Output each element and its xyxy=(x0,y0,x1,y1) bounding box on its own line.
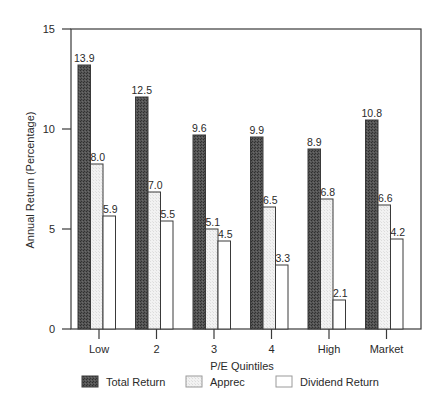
bar-value-label: 5.1 xyxy=(205,216,220,228)
bar-value-label: 13.9 xyxy=(74,52,95,64)
bar-group-2: 12.57.05.5 xyxy=(132,84,176,329)
bar-group-4: 9.96.53.3 xyxy=(249,124,290,329)
bar-dividend-return xyxy=(161,221,174,329)
x-tick-label: Market xyxy=(370,343,404,355)
legend-swatch xyxy=(276,376,292,387)
y-axis-label: Annual Return (Percentage) xyxy=(24,112,36,249)
bar-value-label: 10.8 xyxy=(362,107,383,119)
x-tick-label: 3 xyxy=(211,343,217,355)
bar-group-high: 8.96.82.1 xyxy=(307,136,348,329)
legend-label: Dividend Return xyxy=(300,376,379,388)
bar-value-label: 8.9 xyxy=(307,136,322,148)
bar-dividend-return xyxy=(218,241,231,329)
bar-dividend-return xyxy=(276,265,289,329)
bar-apprec xyxy=(91,164,104,329)
bar-value-label: 9.9 xyxy=(249,124,264,136)
legend-label: Total Return xyxy=(106,376,165,388)
legend-item-total-return: Total Return xyxy=(82,376,165,388)
bar-value-label: 6.6 xyxy=(378,192,393,204)
bar-dividend-return xyxy=(391,239,404,329)
bar-value-label: 12.5 xyxy=(132,84,153,96)
bar-value-label: 7.0 xyxy=(148,179,163,191)
bar-value-label: 4.5 xyxy=(218,228,233,240)
bar-total-return xyxy=(308,149,321,329)
x-tick-label: High xyxy=(318,343,341,355)
bar-value-label: 6.8 xyxy=(320,186,335,198)
bar-value-label: 9.6 xyxy=(192,122,207,134)
x-tick-label: 4 xyxy=(268,343,274,355)
y-axis: 051015 xyxy=(43,23,71,335)
bar-groups: 13.98.05.912.57.05.59.65.14.59.96.53.38.… xyxy=(74,52,405,329)
bar-apprec xyxy=(321,199,334,329)
y-tick-label: 15 xyxy=(43,23,55,35)
bar-value-label: 3.3 xyxy=(275,252,290,264)
legend-swatch xyxy=(82,376,98,387)
bar-value-label: 8.0 xyxy=(90,151,105,163)
bar-total-return xyxy=(78,65,91,329)
bar-total-return xyxy=(136,97,149,329)
bar-dividend-return xyxy=(103,216,116,329)
grouped-bar-chart: 051015 13.98.05.912.57.05.59.65.14.59.96… xyxy=(0,0,444,410)
x-axis-label: P/E Quintiles xyxy=(210,360,274,372)
legend: Total ReturnApprecDividend Return xyxy=(82,376,379,388)
bar-group-3: 9.65.14.5 xyxy=(192,122,233,329)
legend-swatch xyxy=(186,376,202,387)
legend-item-apprec: Apprec xyxy=(186,376,245,388)
x-axis: Low234HighMarket xyxy=(89,329,403,355)
bar-value-label: 5.5 xyxy=(160,208,175,220)
legend-item-dividend-return: Dividend Return xyxy=(276,376,379,388)
y-tick-label: 10 xyxy=(43,123,55,135)
bar-apprec xyxy=(206,229,219,329)
bar-value-label: 5.9 xyxy=(103,203,118,215)
bar-value-label: 2.1 xyxy=(333,287,348,299)
bar-total-return xyxy=(251,137,264,329)
bar-group-low: 13.98.05.9 xyxy=(74,52,118,329)
x-tick-label: 2 xyxy=(153,343,159,355)
x-tick-label: Low xyxy=(89,343,109,355)
y-tick-label: 5 xyxy=(49,223,55,235)
bar-apprec xyxy=(263,207,276,329)
bar-apprec xyxy=(378,205,391,329)
y-tick-label: 0 xyxy=(49,323,55,335)
bar-value-label: 6.5 xyxy=(263,194,278,206)
bar-group-market: 10.86.64.2 xyxy=(362,107,406,329)
bar-total-return xyxy=(366,120,379,329)
bar-value-label: 4.2 xyxy=(390,226,405,238)
legend-label: Apprec xyxy=(210,376,245,388)
bar-total-return xyxy=(193,135,206,329)
bar-apprec xyxy=(148,192,161,329)
bar-dividend-return xyxy=(333,300,346,329)
